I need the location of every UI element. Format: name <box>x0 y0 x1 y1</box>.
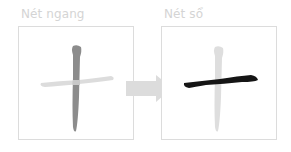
panel-left-title: Nét ngang <box>21 7 85 21</box>
vertical-stroke <box>214 46 223 131</box>
panel-right <box>161 26 277 140</box>
character-stroke-diagram-right <box>162 27 278 141</box>
character-stroke-diagram-left <box>19 27 135 141</box>
panel-left <box>18 26 134 140</box>
vertical-stroke <box>72 45 81 131</box>
stroke-intersection <box>73 80 80 85</box>
panel-right-title: Nét sổ <box>164 7 203 21</box>
